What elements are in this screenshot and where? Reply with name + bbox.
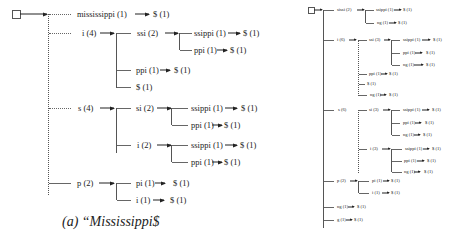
leaf-end: $ (1) <box>398 21 407 26</box>
node-ssippi: ssippi (1) <box>191 141 223 150</box>
branch-line <box>359 40 367 41</box>
edge-arrow <box>346 220 352 221</box>
leaf-end: $ (1) <box>354 218 363 223</box>
edge-arrow <box>225 108 237 109</box>
leaf-end: $ (1) <box>230 46 246 55</box>
edge-arrow <box>225 145 237 146</box>
edge-arrow <box>165 33 178 34</box>
branch-line <box>359 193 369 194</box>
node-ssippi: ssippi (1) <box>403 38 420 43</box>
node-p: p (2) <box>337 179 346 184</box>
edge-arrow <box>422 110 429 111</box>
branch-line <box>392 40 400 41</box>
edge-arrow <box>414 135 420 136</box>
node-ng: ng (1) <box>377 21 388 26</box>
subtree-line <box>358 181 359 193</box>
subtree-line <box>116 108 117 153</box>
edge-arrow <box>415 53 422 54</box>
node-mississippi: mississippi (1) <box>77 10 127 19</box>
edge-arrow <box>217 50 227 51</box>
branch-line <box>324 10 334 11</box>
node-ppi: ppi (1) <box>191 121 214 130</box>
node-ppi: ppi (1) <box>403 51 415 56</box>
branch-line <box>172 162 188 163</box>
branch-line <box>180 50 192 51</box>
edge-arrow <box>381 74 387 75</box>
leaf-end: $ (1) <box>391 191 400 196</box>
leaf-end: $ (1) <box>367 82 376 87</box>
leaf-end: $ (1) <box>240 141 256 150</box>
branch-line <box>392 53 400 54</box>
leaf-end: $ (1) <box>241 104 257 113</box>
branch-line <box>392 65 400 66</box>
edge-arrow <box>423 149 429 150</box>
leaf-end: $ (1) <box>391 179 400 184</box>
root-trunk-line <box>323 10 324 228</box>
leaf-end: $ (1) <box>425 121 434 126</box>
leaf-end: $ (1) <box>426 63 435 68</box>
root-arrow <box>314 10 322 11</box>
edge-arrow <box>384 40 390 41</box>
edge-arrow <box>100 108 114 109</box>
branch-line <box>172 145 188 146</box>
edge-arrow <box>212 162 222 163</box>
branch-line <box>392 123 400 124</box>
edge-arrow <box>389 23 396 24</box>
leaf-end: $ (1) <box>170 196 186 205</box>
edge-arrow <box>422 40 430 41</box>
leaf-end: $ (1) <box>389 93 398 98</box>
subtree-line <box>365 10 366 23</box>
branch-line <box>359 181 369 182</box>
subtree-line <box>358 40 359 96</box>
edge-arrow <box>383 110 390 111</box>
branch-line <box>49 183 71 184</box>
node-ssippi: ssippi (1) <box>403 108 420 113</box>
branch-line <box>172 125 188 126</box>
branch-line <box>117 70 131 71</box>
branch-line <box>117 87 131 88</box>
node-ppi: ppi (1) <box>136 66 159 75</box>
subtree-line <box>179 33 180 50</box>
edge-arrow <box>382 149 390 150</box>
branch-line <box>180 33 192 34</box>
node-g: g (1) <box>337 218 346 223</box>
leaf-end: $ (1) <box>174 66 190 75</box>
edge-arrow <box>135 14 149 15</box>
edge-arrow <box>155 183 165 184</box>
edge-arrow <box>157 108 171 109</box>
root-node-box <box>12 10 21 19</box>
edge-arrow <box>417 161 424 162</box>
edge-arrow <box>383 181 389 182</box>
node-i: i (3) <box>370 147 378 152</box>
node-pi: pi (1) <box>136 179 155 188</box>
subtree-line <box>358 110 359 173</box>
node-s: s (4) <box>78 104 93 113</box>
edge-arrow <box>100 33 114 34</box>
node-ssippi: ssippi (1) <box>194 29 226 38</box>
branch-line <box>392 110 400 111</box>
leaf-end: $ (1) <box>136 83 152 92</box>
subtree-line <box>116 183 117 200</box>
subtree-line <box>171 108 172 125</box>
suffix-tree-mississippi: mississippi (1) $ (1) i (4) ssi (2) ssip… <box>0 0 300 238</box>
leaf-end: $ (1) <box>426 51 435 56</box>
branch-line <box>324 110 334 111</box>
leaf-end: $ (1) <box>243 29 259 38</box>
branch-line <box>392 135 400 136</box>
node-i: i (6) <box>337 38 345 43</box>
edge-arrow <box>414 172 420 173</box>
branch-line <box>324 207 334 208</box>
subtree-line <box>171 145 172 162</box>
leaf-end: $ (1) <box>357 205 366 210</box>
edge-arrow <box>212 125 222 126</box>
branch-line <box>49 33 71 34</box>
leaf-end: $ (1) <box>224 121 240 130</box>
edge-arrow <box>414 65 423 66</box>
node-ppi: ppi (1) <box>191 158 214 167</box>
node-ng: ng (1) <box>337 205 348 210</box>
leaf-end: $ (1) <box>432 108 441 113</box>
leaf-end: $ (1) <box>224 158 240 167</box>
leaf-end: $ (1) <box>153 10 169 19</box>
leaf-end: $ (1) <box>427 159 436 164</box>
edge-arrow <box>357 10 364 11</box>
